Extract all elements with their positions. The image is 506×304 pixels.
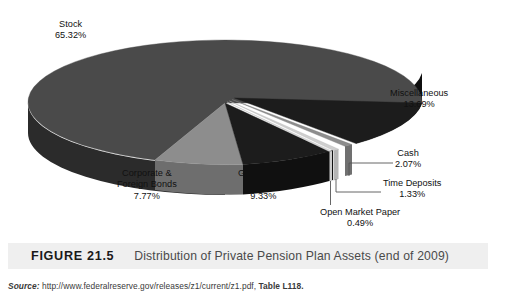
figure-container: Stock 65.32% Miscellaneous 13.69% Cash 2… xyxy=(0,0,506,304)
label-cash-name: Cash xyxy=(397,148,418,158)
label-miscellaneous: Miscellaneous 13.69% xyxy=(390,88,448,111)
source-table: Table L118. xyxy=(259,281,304,291)
label-corporate-foreign-bonds-value: 7.77% xyxy=(117,191,177,202)
label-corporate-foreign-bonds: Corporate & Foreign Bonds 7.77% xyxy=(117,168,177,202)
label-open-market-paper-value: 0.49% xyxy=(320,218,400,229)
source-keyword: Source: xyxy=(8,281,40,291)
figure-caption-bar: FIGURE 21.5 Distribution of Private Pens… xyxy=(8,243,488,269)
slice-side-time-deposits xyxy=(334,149,339,181)
label-government-securities-name2: Securities xyxy=(238,179,289,190)
source-url: http://www.federalreserve.gov/releases/z… xyxy=(42,281,256,291)
label-open-market-paper: Open Market Paper 0.49% xyxy=(320,207,400,230)
label-government-securities: Government Securities 9.33% xyxy=(238,168,289,202)
label-cash: Cash 2.07% xyxy=(395,148,421,171)
label-cash-value: 2.07% xyxy=(395,159,421,170)
slice-side-open-market-paper xyxy=(330,151,333,182)
label-miscellaneous-name: Miscellaneous xyxy=(390,88,448,98)
label-corporate-foreign-bonds-name2: Foreign Bonds xyxy=(117,179,177,190)
slice-side-cash xyxy=(345,145,352,177)
label-stock-name: Stock xyxy=(59,19,82,29)
label-corporate-foreign-bonds-name: Corporate & xyxy=(122,168,172,178)
label-government-securities-name: Government xyxy=(238,168,289,178)
label-stock-value: 65.32% xyxy=(55,30,86,41)
label-government-securities-value: 9.33% xyxy=(238,191,289,202)
label-open-market-paper-name: Open Market Paper xyxy=(320,207,400,217)
figure-number: FIGURE 21.5 xyxy=(31,249,114,263)
pie-chart: Stock 65.32% Miscellaneous 13.69% Cash 2… xyxy=(0,0,506,238)
label-miscellaneous-value: 13.69% xyxy=(390,99,448,110)
label-time-deposits-value: 1.33% xyxy=(383,189,441,200)
leader-line-time-deposits xyxy=(336,179,381,192)
leader-line-cash xyxy=(349,163,393,176)
figure-title: Distribution of Private Pension Plan Ass… xyxy=(134,249,449,263)
label-time-deposits: Time Deposits 1.33% xyxy=(383,178,441,201)
source-note: Source: http://www.federalreserve.gov/re… xyxy=(8,281,304,291)
label-time-deposits-name: Time Deposits xyxy=(383,178,441,188)
label-stock: Stock 65.32% xyxy=(55,19,86,42)
